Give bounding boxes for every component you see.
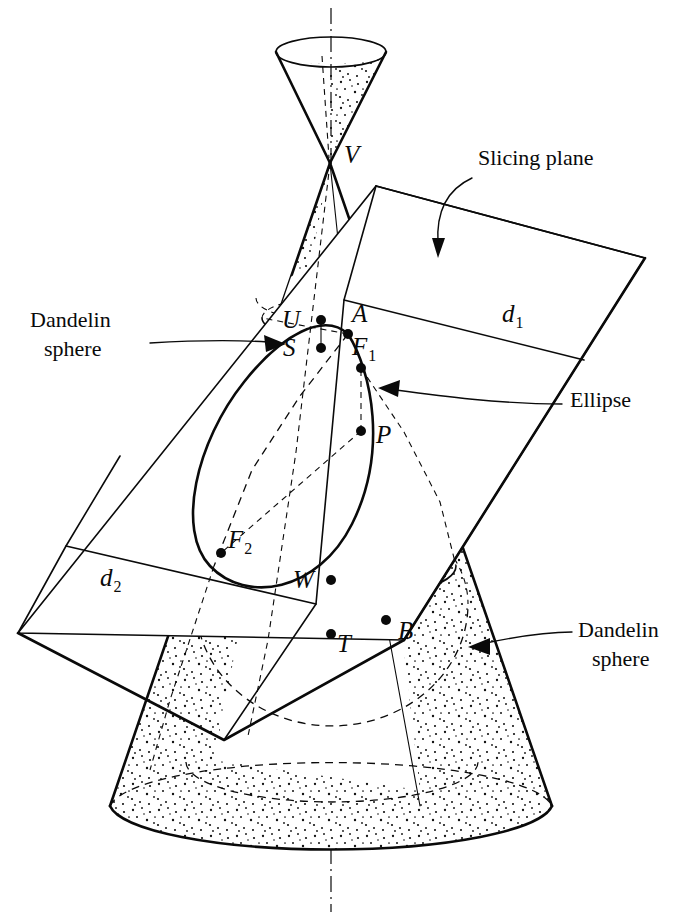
diagram-canvas: V U A S F1 P F2 W T B d1 d2 bbox=[0, 0, 684, 920]
point-label-V: V bbox=[344, 141, 362, 168]
callout-label-ellipse: Ellipse bbox=[570, 387, 631, 412]
point-label-P: P bbox=[375, 421, 391, 448]
point-dot-S bbox=[316, 343, 326, 353]
point-dot-F1 bbox=[356, 363, 366, 373]
point-label-W: W bbox=[293, 566, 316, 593]
leader-dandelin-lower bbox=[486, 632, 572, 643]
callout-label-dandelin-lower-line1: Dandelin bbox=[578, 617, 659, 642]
dandelin-spheres-figure: V U A S F1 P F2 W T B d1 d2 bbox=[0, 0, 684, 920]
point-label-A: A bbox=[350, 300, 368, 327]
point-label-U: U bbox=[282, 306, 302, 333]
upper-nappe bbox=[260, 36, 410, 176]
callout-label-dandelin-upper-line2: sphere bbox=[44, 336, 101, 361]
point-label-B: B bbox=[398, 617, 413, 644]
point-dot-B bbox=[381, 615, 391, 625]
point-dot-U bbox=[316, 315, 326, 325]
callout-label-dandelin-upper-line1: Dandelin bbox=[30, 307, 111, 332]
point-dot-T bbox=[326, 629, 336, 639]
point-label-T: T bbox=[337, 630, 353, 657]
point-dot-P bbox=[356, 426, 366, 436]
point-dot-F2 bbox=[216, 548, 226, 558]
callout-label-dandelin-lower-line2: sphere bbox=[592, 646, 649, 671]
callout-label-slicing-plane: Slicing plane bbox=[478, 145, 593, 170]
point-dot-W bbox=[326, 575, 336, 585]
point-label-S: S bbox=[283, 334, 296, 361]
